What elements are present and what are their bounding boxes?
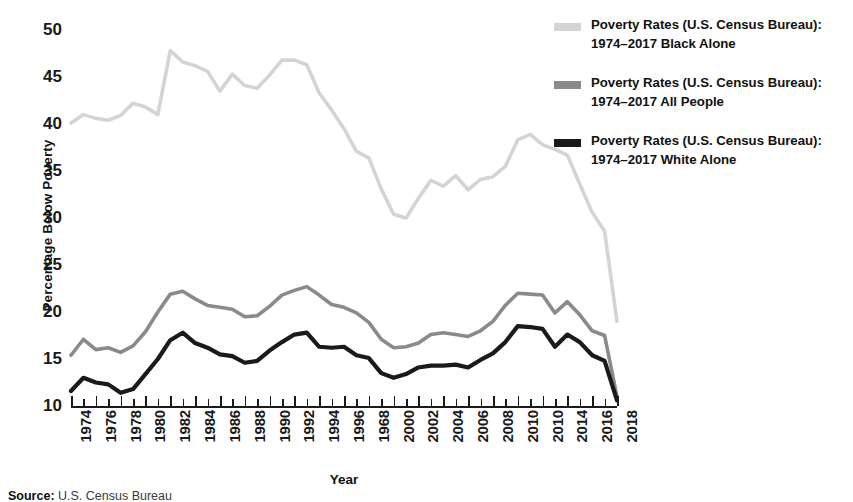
legend-label-line2: 1974–2017 Black Alone (591, 35, 853, 54)
x-tick-mark (555, 399, 557, 406)
y-tick-label: 15 (0, 349, 62, 369)
legend-color-swatch (554, 139, 581, 147)
x-axis-line (71, 406, 617, 408)
x-tick-mark (319, 396, 321, 406)
x-tick-mark (431, 399, 433, 406)
x-tick-mark (332, 399, 334, 406)
x-tick-label: 1988 (251, 410, 268, 443)
legend-label: Poverty Rates (U.S. Census Bureau):1974–… (591, 74, 853, 111)
legend-label: Poverty Rates (U.S. Census Bureau):1974–… (591, 132, 853, 169)
legend-label-line1: Poverty Rates (U.S. Census Bureau): (591, 16, 853, 35)
x-tick-mark (121, 396, 123, 406)
legend-label-line2: 1974–2017 White Alone (591, 151, 853, 170)
x-tick-mark (232, 399, 234, 406)
y-tick-label: 40 (0, 114, 62, 134)
legend-entry[interactable]: Poverty Rates (U.S. Census Bureau):1974–… (554, 74, 853, 111)
legend-label: Poverty Rates (U.S. Census Bureau):1974–… (591, 16, 853, 53)
y-tick-label: 25 (0, 255, 62, 275)
x-tick-label: 1992 (300, 410, 317, 443)
x-tick-mark (456, 399, 458, 406)
chart-legend: Poverty Rates (U.S. Census Bureau):1974–… (554, 16, 853, 190)
x-tick-mark (394, 396, 396, 406)
source-note: Source: U.S. Census Bureau (8, 489, 172, 502)
x-tick-label: 1978 (127, 410, 144, 443)
x-tick-mark (381, 399, 383, 406)
series-line (71, 326, 617, 400)
x-tick-label: 1984 (201, 410, 218, 443)
legend-label-line1: Poverty Rates (U.S. Census Bureau): (591, 132, 853, 151)
x-tick-label: 1996 (350, 410, 367, 443)
x-tick-label: 2004 (449, 410, 466, 443)
x-tick-label: 2016 (598, 410, 615, 443)
y-tick-label: 50 (0, 20, 62, 40)
x-tick-mark (580, 399, 582, 406)
x-axis-title: Year (71, 472, 617, 487)
x-tick-label: 2010 (549, 410, 566, 443)
x-tick-mark (96, 396, 98, 406)
x-tick-mark (592, 396, 594, 406)
x-tick-label: 1980 (151, 410, 168, 443)
x-tick-mark (270, 396, 272, 406)
x-axis-ticks (71, 396, 617, 406)
x-tick-mark (83, 399, 85, 406)
y-axis-tick-labels: 101520253035404550 (0, 0, 62, 502)
series-line (71, 51, 617, 322)
legend-label-line1: Poverty Rates (U.S. Census Bureau): (591, 74, 853, 93)
x-tick-label: 1976 (102, 410, 119, 443)
x-tick-mark (183, 399, 185, 406)
x-tick-mark (617, 396, 619, 406)
y-tick-label: 10 (0, 396, 62, 416)
x-tick-mark (133, 399, 135, 406)
x-tick-mark (443, 396, 445, 406)
series-line (71, 287, 617, 397)
x-tick-mark (356, 399, 358, 406)
x-tick-mark (493, 396, 495, 406)
source-text: U.S. Census Bureau (55, 489, 172, 502)
x-tick-label: 2008 (499, 410, 516, 443)
x-tick-mark (245, 396, 247, 406)
x-tick-mark (108, 399, 110, 406)
x-tick-label: 2014 (573, 410, 590, 443)
x-tick-label: 1986 (226, 410, 243, 443)
x-tick-mark (481, 399, 483, 406)
x-tick-mark (294, 396, 296, 406)
x-tick-mark (505, 399, 507, 406)
x-tick-mark (605, 399, 607, 406)
x-tick-mark (145, 396, 147, 406)
x-tick-label: 2000 (400, 410, 417, 443)
x-tick-label: 2006 (474, 410, 491, 443)
legend-entry[interactable]: Poverty Rates (U.S. Census Bureau):1974–… (554, 132, 853, 169)
x-tick-label: 1974 (77, 410, 94, 443)
x-tick-label: 2018 (623, 410, 640, 443)
x-tick-mark (518, 396, 520, 406)
x-axis-tick-labels: 1974197619781980198219841986198819901992… (71, 410, 617, 472)
source-label: Source: (8, 489, 55, 502)
legend-color-swatch (554, 23, 581, 31)
x-tick-mark (418, 396, 420, 406)
y-tick-label: 30 (0, 208, 62, 228)
x-tick-mark (530, 399, 532, 406)
x-tick-label: 1968 (375, 410, 392, 443)
x-tick-mark (567, 396, 569, 406)
x-tick-label: 1994 (325, 410, 342, 443)
x-tick-mark (344, 396, 346, 406)
y-tick-label: 45 (0, 67, 62, 87)
poverty-rates-line-chart: Percentage Below Poverty 101520253035404… (0, 0, 853, 502)
x-tick-mark (170, 396, 172, 406)
x-tick-mark (282, 399, 284, 406)
y-tick-label: 20 (0, 302, 62, 322)
x-tick-mark (158, 399, 160, 406)
x-tick-mark (307, 399, 309, 406)
x-tick-mark (220, 396, 222, 406)
x-tick-mark (195, 396, 197, 406)
x-tick-mark (406, 399, 408, 406)
x-tick-label: 1982 (176, 410, 193, 443)
legend-entry[interactable]: Poverty Rates (U.S. Census Bureau):1974–… (554, 16, 853, 53)
legend-label-line2: 1974–2017 All People (591, 93, 853, 112)
x-tick-mark (257, 399, 259, 406)
x-tick-mark (468, 396, 470, 406)
series-lines (71, 30, 617, 406)
x-tick-mark (543, 396, 545, 406)
x-tick-mark (71, 396, 73, 406)
x-tick-mark (208, 399, 210, 406)
